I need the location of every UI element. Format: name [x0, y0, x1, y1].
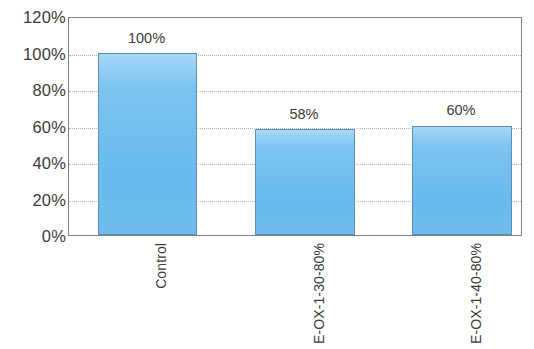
bar-e-ox-1-30-80[interactable] [255, 129, 355, 235]
bar-chart: 120% 100% 80% 60% 40% 20% 0% 100% 58% 60… [0, 0, 534, 349]
y-tick-label-100: 100% [4, 44, 66, 63]
y-tick-label-40: 40% [4, 154, 66, 173]
plot-area [68, 17, 522, 236]
bar-value-label-control: 100% [97, 30, 196, 46]
x-tick-label-e-ox-1-30-80: E-OX-1-30-80% [311, 243, 327, 344]
y-tick-label-0: 0% [4, 227, 66, 246]
y-tick-label-120: 120% [4, 8, 66, 27]
bar-e-ox-1-40-80[interactable] [412, 126, 512, 236]
y-tick-label-60: 60% [4, 117, 66, 136]
x-tick-label-control: Control [153, 243, 169, 289]
y-tick-label-80: 80% [4, 81, 66, 100]
y-axis: 120% 100% 80% 60% 40% 20% 0% [0, 0, 66, 349]
x-tick-label-e-ox-1-40-80: E-OX-1-40-80% [468, 243, 484, 344]
y-tick-label-20: 20% [4, 190, 66, 209]
bar-control[interactable] [98, 53, 197, 236]
bar-value-label-e-ox-1-30-80: 58% [254, 106, 354, 122]
bar-value-label-e-ox-1-40-80: 60% [411, 102, 511, 118]
